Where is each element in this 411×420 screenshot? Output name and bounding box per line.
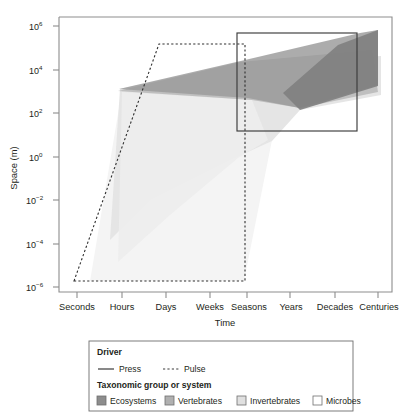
x-tick-label-centuries: Centuries (359, 302, 399, 312)
x-tick-label-decades: Decades (317, 302, 354, 312)
x-tick-label-hours: Hours (110, 302, 135, 312)
x-axis-title: Time (215, 317, 235, 328)
x-tick-label-seconds: Seconds (59, 302, 95, 312)
y-axis-ticks (53, 26, 59, 287)
legend: Driver Press Pulse Taxonomic group or sy… (89, 341, 361, 411)
y-tick-label-3: 100 (29, 151, 43, 163)
chart-svg: 106 104 102 100 10−2 10−4 10−6 Space (m) (0, 0, 411, 420)
y-tick-label-5: 10−4 (26, 238, 44, 250)
legend-swatch-invertebrates (237, 396, 246, 405)
legend-pulse-label: Pulse (184, 364, 206, 374)
x-axis-ticks (77, 292, 378, 298)
x-tick-label-weeks: Weeks (196, 302, 224, 312)
legend-label-microbes: Microbes (326, 396, 361, 406)
legend-swatch-ecosystems (97, 396, 106, 405)
figure-container: 106 104 102 100 10−2 10−4 10−6 Space (m) (0, 0, 411, 420)
y-tick-label-0: 106 (29, 20, 43, 32)
legend-label-vertebrates: Vertebrates (178, 396, 222, 406)
legend-taxon-title: Taxonomic group or system (97, 380, 212, 390)
legend-label-ecosystems: Ecosystems (110, 396, 156, 406)
legend-swatch-vertebrates (165, 396, 174, 405)
legend-driver-title: Driver (97, 347, 122, 357)
y-tick-label-1: 104 (29, 64, 43, 76)
x-tick-label-years: Years (279, 302, 303, 312)
legend-press-label: Press (119, 364, 141, 374)
y-tick-label-2: 102 (29, 107, 43, 119)
y-axis-title: Space (m) (8, 146, 19, 189)
legend-label-invertebrates: Invertebrates (250, 396, 300, 406)
y-axis-labels: 106 104 102 100 10−2 10−4 10−6 (26, 20, 44, 293)
y-tick-label-6: 10−6 (26, 281, 44, 293)
x-tick-label-seasons: Seasons (231, 302, 267, 312)
legend-swatch-microbes (313, 396, 322, 405)
x-tick-label-days: Days (156, 302, 177, 312)
x-axis-labels: Seconds Hours Days Weeks Seasons Years D… (59, 302, 399, 312)
y-tick-label-4: 10−2 (26, 194, 44, 206)
